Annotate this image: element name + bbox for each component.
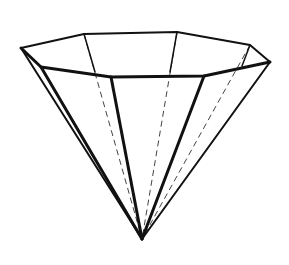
edge-right (142, 62, 270, 239)
inner-wall-edge-right (170, 32, 177, 72)
hidden-edges (84, 32, 250, 239)
diagram-canvas: Octagonal inverted pyramid (cone-like po… (0, 0, 289, 265)
rim-back-outline (21, 32, 270, 62)
rim-back-edges (21, 32, 270, 72)
inner-wall-edge-far-right (242, 45, 250, 66)
edge-front-right (142, 76, 204, 239)
rim-front-outline (21, 48, 270, 77)
inner-wall-edge-left (84, 34, 95, 72)
inverted-octagonal-pyramid (0, 0, 289, 265)
